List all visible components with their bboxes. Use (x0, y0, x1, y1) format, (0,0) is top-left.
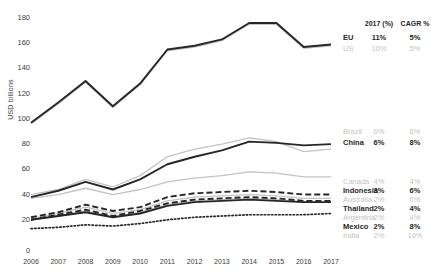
legend-cagr-thailand: 4% (398, 204, 432, 213)
x-tick-2016: 2016 (289, 258, 319, 265)
series-line-china (31, 142, 331, 197)
x-axis-tick-labels: 2006200720082009201020112012201320142015… (31, 258, 331, 272)
legend-header-cagr: CAGR % (398, 20, 432, 27)
legend-share-australia: 2% (362, 195, 396, 204)
x-tick-2013: 2013 (207, 258, 237, 265)
x-tick-2017: 2017 (316, 258, 346, 265)
series-line-us (31, 24, 331, 124)
legend-cagr-argentina: 4% (398, 213, 432, 222)
legend-share-thailand: 2% (362, 204, 396, 213)
x-tick-2009: 2009 (98, 258, 128, 265)
legend-cagr-brazil: 6% (398, 127, 432, 136)
x-tick-2010: 2010 (125, 258, 155, 265)
legend-cagr-mexico: 8% (398, 222, 432, 231)
legend-cagr-australia: 6% (398, 195, 432, 204)
x-tick-2012: 2012 (180, 258, 210, 265)
legend-share-eu: 11% (362, 33, 396, 42)
x-tick-2007: 2007 (43, 258, 73, 265)
legend-cagr-eu: 5% (398, 33, 432, 42)
x-tick-2011: 2011 (152, 258, 182, 265)
x-tick-2008: 2008 (71, 258, 101, 265)
legend-share-canada: 4% (362, 177, 396, 186)
series-line-india (31, 213, 331, 228)
series-line-brazil (31, 138, 331, 195)
legend-share-us: 10% (362, 44, 396, 53)
legend-share-brazil: 6% (362, 127, 396, 136)
legend-cagr-us: 5% (398, 44, 432, 53)
legend-share-indonesia: 3% (362, 186, 396, 195)
legend-label-india[interactable]: India (343, 231, 359, 240)
legend-label-brazil[interactable]: Brazil (343, 127, 362, 136)
legend-label-eu[interactable]: EU (343, 33, 353, 42)
x-tick-2006: 2006 (16, 258, 46, 265)
legend-label-china[interactable]: China (343, 138, 364, 147)
legend-share-mexico: 2% (362, 222, 396, 231)
legend-cagr-india: 10% (398, 231, 432, 240)
legend-share-argentina: 2% (362, 213, 396, 222)
line-chart: USD billions 20406080100120140160180 0 2… (0, 0, 437, 279)
legend-label-us[interactable]: US (343, 44, 353, 53)
legend-share-china: 6% (362, 138, 396, 147)
legend-cagr-indonesia: 6% (398, 186, 432, 195)
legend-cagr-canada: 4% (398, 177, 432, 186)
legend-header-share: 2017 (%) (362, 20, 396, 27)
x-tick-2014: 2014 (234, 258, 264, 265)
series-line-eu (31, 23, 331, 123)
legend-cagr-china: 8% (398, 138, 432, 147)
x-tick-2015: 2015 (261, 258, 291, 265)
legend-share-india: 2% (362, 231, 396, 240)
